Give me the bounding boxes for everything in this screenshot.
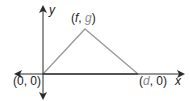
apex-label: (f, g) bbox=[71, 11, 96, 25]
triangle-diagram: y x (f, g) (0, 0) (d, 0) bbox=[0, 0, 190, 101]
y-axis-label: y bbox=[48, 3, 56, 17]
triangle-side-left bbox=[43, 29, 138, 74]
x-axis-label: x bbox=[174, 74, 182, 88]
origin-label: (0, 0) bbox=[13, 74, 41, 88]
right-vertex-label: (d, 0) bbox=[139, 74, 167, 88]
